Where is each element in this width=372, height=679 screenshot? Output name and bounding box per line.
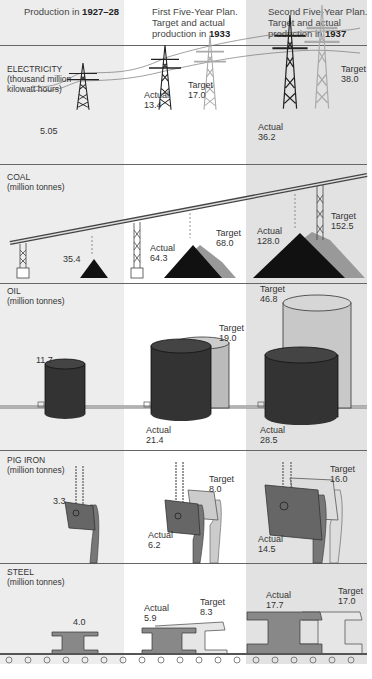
oil-1937-actual: Actual28.5 [260,425,285,445]
steel-1937-actual: Actual17.7 [266,590,291,610]
pig-iron-1937-target: Target16.0 [330,464,355,484]
pig-iron-1933-target: Target8.0 [209,474,234,494]
steel-1937-target: Target17.0 [338,586,363,606]
section-oil-label: OIL (million tonnes) [7,286,65,306]
electricity-1937-target: Target38.0 [341,64,366,84]
section-steel-label: STEEL (million tonnes) [7,567,65,587]
pig-iron-1937-actual: Actual14.5 [258,534,283,554]
pig-iron-1933-actual: Actual6.2 [148,530,173,550]
oil-1937-target: Target46.8 [260,284,285,304]
oil-1933-actual: Actual21.4 [146,425,171,445]
coal-1933-actual: Actual64.3 [150,243,175,263]
steel-graphic [0,612,367,663]
electricity-1928-value: 5.05 [40,126,58,136]
section-coal-label: COAL (million tonnes) [7,172,65,192]
electricity-1937-actual: Actual36.2 [258,122,283,142]
section-electricity-label: ELECTRICITY (thousand million kilowatt h… [7,64,71,94]
electricity-1933-target: Target17.0 [188,80,213,100]
steel-1933-actual: Actual5.9 [144,603,169,623]
coal-1937-target: Target152.5 [331,211,356,231]
pig-iron-graphic [65,462,342,563]
electricity-1933-actual: Actual13.4 [144,90,169,110]
oil-1928-value: 11.7 [36,355,53,365]
steel-1933-target: Target8.3 [200,597,225,617]
oil-graphic [0,295,367,425]
pig-iron-1928-value: 3.3 [53,496,66,506]
steel-1928-value: 4.0 [73,617,86,627]
section-pig-iron-label: PIG IRON (million tonnes) [7,455,65,475]
coal-1937-actual: Actual128.0 [257,226,282,246]
coal-1933-target: Target68.0 [216,228,241,248]
oil-1933-target: Target19.0 [219,323,244,343]
coal-1928-value: 35.4 [63,254,81,264]
